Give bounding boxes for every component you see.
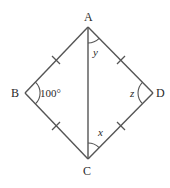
vertex-label-d: D — [156, 86, 165, 100]
angle-arc-c — [88, 143, 99, 148]
vertex-label-c: C — [83, 164, 91, 178]
vertex-label-b: B — [11, 86, 19, 100]
angle-label-d: z — [129, 87, 135, 99]
angle-arc-d — [138, 82, 142, 103]
angle-label-a: y — [92, 46, 98, 58]
angle-label-b: 100° — [40, 87, 61, 99]
kite-diagram: A B C D 100° y x z — [0, 0, 170, 188]
vertex-label-a: A — [84, 10, 93, 24]
angle-label-c: x — [97, 126, 103, 138]
angle-arc-a — [88, 38, 99, 43]
